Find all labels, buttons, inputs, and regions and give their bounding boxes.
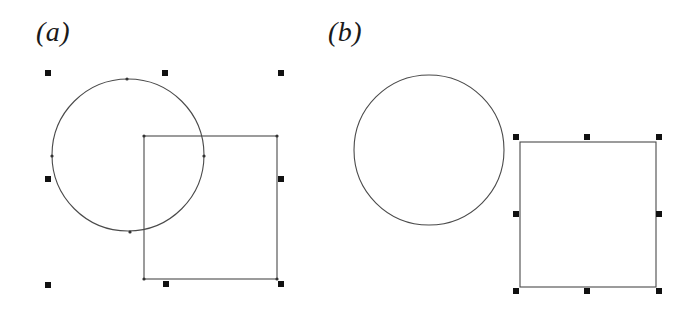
panel-a-shape-nodes (50, 77, 278, 280)
shape-node (142, 277, 145, 280)
shape-node (128, 230, 131, 233)
resize-handle[interactable] (513, 288, 519, 294)
panel-a-selection-handles[interactable] (45, 70, 284, 288)
resize-handle[interactable] (278, 281, 284, 287)
shape-node (125, 77, 128, 80)
resize-handle[interactable] (278, 176, 284, 182)
shape-node (202, 154, 205, 157)
resize-handle[interactable] (278, 70, 284, 76)
resize-handle[interactable] (45, 70, 51, 76)
resize-handle[interactable] (162, 70, 168, 76)
resize-handle[interactable] (163, 281, 169, 287)
resize-handle[interactable] (656, 134, 662, 140)
shape-node (275, 277, 278, 280)
panel-a-rectangle[interactable] (144, 136, 277, 279)
panel-a (45, 70, 284, 288)
resize-handle[interactable] (584, 134, 590, 140)
resize-handle[interactable] (584, 288, 590, 294)
shape-node (50, 154, 53, 157)
resize-handle[interactable] (45, 176, 51, 182)
resize-handle[interactable] (656, 288, 662, 294)
resize-handle[interactable] (45, 282, 51, 288)
resize-handle[interactable] (656, 211, 662, 217)
panel-b (354, 75, 662, 294)
diagram-canvas (0, 0, 690, 327)
panel-b-selection-handles[interactable] (513, 134, 662, 294)
panel-b-rectangle[interactable] (520, 142, 656, 287)
shape-node (142, 134, 145, 137)
shape-node (275, 134, 278, 137)
panel-a-circle[interactable] (52, 79, 204, 231)
resize-handle[interactable] (513, 134, 519, 140)
resize-handle[interactable] (513, 211, 519, 217)
panel-b-circle[interactable] (354, 75, 504, 225)
